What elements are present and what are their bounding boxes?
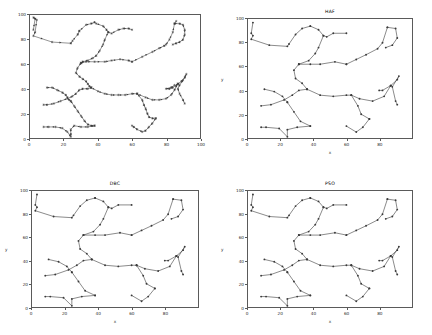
- x-tick-label: 20: [278, 311, 283, 316]
- y-tick-mark: [27, 39, 29, 40]
- y-tick-mark: [29, 284, 31, 285]
- x-tick-mark: [29, 139, 30, 141]
- x-tick-mark: [31, 308, 32, 310]
- y-tick-label: 40: [231, 88, 244, 93]
- y-tick-label: 100: [15, 188, 28, 193]
- x-axis-label: x: [114, 319, 116, 324]
- y-tick-mark: [245, 139, 247, 140]
- y-tick-mark: [27, 14, 29, 15]
- x-tick-label: 40: [95, 142, 100, 147]
- y-tick-label: 40: [15, 258, 28, 263]
- x-tick-mark: [280, 308, 281, 310]
- y-tick-mark: [29, 308, 31, 309]
- x-tick-mark: [247, 139, 248, 141]
- y-tick-label: 0: [231, 306, 244, 311]
- panel-title: HAF: [247, 9, 413, 15]
- y-tick-mark: [245, 214, 247, 215]
- y-tick-label: 80: [15, 211, 28, 216]
- y-tick-label: 60: [231, 235, 244, 240]
- x-tick-mark: [347, 308, 348, 310]
- y-tick-mark: [27, 114, 29, 115]
- x-tick-label: 40: [96, 311, 101, 316]
- y-tick-mark: [245, 91, 247, 92]
- y-tick-label: 20: [13, 112, 26, 117]
- y-tick-label: 60: [231, 64, 244, 69]
- x-tick-label: 20: [278, 142, 283, 147]
- y-tick-mark: [245, 190, 247, 191]
- y-tick-label: 60: [13, 62, 26, 67]
- y-tick-label: 100: [231, 16, 244, 21]
- chart-panel-haf: HAF020406080020406080100xy: [216, 2, 432, 172]
- y-tick-mark: [29, 237, 31, 238]
- x-tick-label: 20: [62, 311, 67, 316]
- y-axis-label: y: [221, 247, 223, 252]
- x-tick-mark: [347, 139, 348, 141]
- y-tick-label: 100: [231, 188, 244, 193]
- x-tick-mark: [280, 139, 281, 141]
- y-tick-mark: [245, 284, 247, 285]
- x-tick-label: 80: [377, 311, 382, 316]
- y-tick-mark: [29, 261, 31, 262]
- x-tick-mark: [65, 308, 66, 310]
- x-tick-label: 40: [311, 142, 316, 147]
- chart-panel-dbc: DBC020406080020406080100xy: [0, 172, 216, 335]
- x-tick-label: 40: [311, 311, 316, 316]
- x-tick-mark: [98, 308, 99, 310]
- y-tick-label: 80: [13, 37, 26, 42]
- plot-area: [247, 18, 413, 139]
- panel-title: PSO: [247, 181, 413, 187]
- y-tick-label: 40: [13, 87, 26, 92]
- x-tick-mark: [313, 139, 314, 141]
- y-tick-label: 20: [231, 282, 244, 287]
- x-tick-mark: [247, 308, 248, 310]
- x-tick-label: 60: [344, 142, 349, 147]
- x-tick-mark: [167, 139, 168, 141]
- x-tick-mark: [132, 139, 133, 141]
- y-axis-label: y: [5, 247, 7, 252]
- x-tick-label: 0: [246, 311, 249, 316]
- y-tick-label: 60: [15, 235, 28, 240]
- y-tick-label: 80: [231, 40, 244, 45]
- panel-title: DBC: [31, 181, 199, 187]
- x-tick-mark: [380, 139, 381, 141]
- y-tick-mark: [245, 261, 247, 262]
- y-tick-label: 40: [231, 258, 244, 263]
- y-tick-mark: [245, 42, 247, 43]
- y-tick-label: 20: [15, 282, 28, 287]
- x-tick-label: 60: [129, 311, 134, 316]
- x-tick-mark: [380, 308, 381, 310]
- y-tick-label: 100: [13, 12, 26, 17]
- x-tick-label: 100: [197, 142, 205, 147]
- x-tick-label: 0: [246, 142, 249, 147]
- y-axis-label: y: [221, 76, 223, 81]
- x-tick-mark: [165, 308, 166, 310]
- figure-canvas: 020406080100020406080100HAF0204060800204…: [0, 0, 432, 335]
- x-tick-label: 80: [377, 142, 382, 147]
- x-tick-mark: [313, 308, 314, 310]
- chart-panel-pso: PSO020406080020406080100xy: [216, 172, 432, 335]
- y-tick-mark: [27, 89, 29, 90]
- x-tick-mark: [201, 139, 202, 141]
- x-tick-label: 0: [28, 142, 31, 147]
- x-tick-label: 80: [163, 311, 168, 316]
- x-tick-mark: [132, 308, 133, 310]
- plot-area: [31, 190, 199, 308]
- y-tick-mark: [27, 64, 29, 65]
- y-tick-label: 20: [231, 112, 244, 117]
- y-tick-label: 0: [231, 137, 244, 142]
- y-tick-label: 0: [13, 137, 26, 142]
- y-tick-mark: [245, 18, 247, 19]
- y-tick-mark: [29, 190, 31, 191]
- y-tick-mark: [245, 115, 247, 116]
- chart-panel-initial: 020406080100020406080100: [0, 2, 216, 172]
- x-axis-label: x: [329, 319, 331, 324]
- y-tick-mark: [245, 308, 247, 309]
- y-tick-label: 80: [231, 211, 244, 216]
- y-tick-mark: [29, 214, 31, 215]
- x-tick-label: 60: [130, 142, 135, 147]
- x-tick-label: 0: [30, 311, 33, 316]
- y-tick-label: 0: [15, 306, 28, 311]
- x-tick-mark: [63, 139, 64, 141]
- y-tick-mark: [27, 139, 29, 140]
- x-tick-label: 80: [164, 142, 169, 147]
